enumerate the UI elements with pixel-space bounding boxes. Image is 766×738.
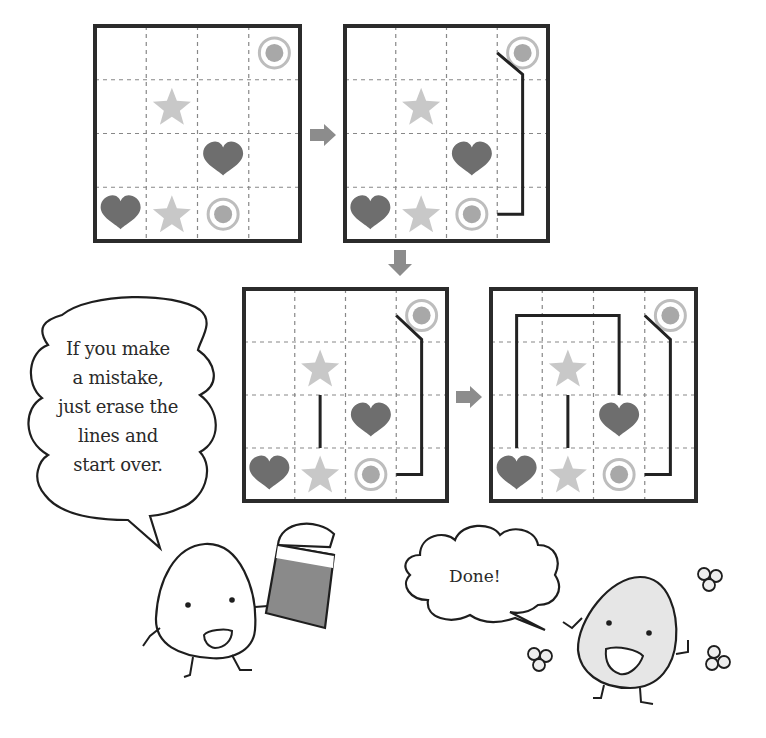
arrow-right-icon (310, 124, 336, 146)
speech-line: start over. (34, 450, 202, 479)
character-left (143, 544, 268, 677)
arrow-right-icon (456, 386, 482, 408)
puzzle-grid-step-4 (491, 289, 696, 501)
target-circle-icon (508, 38, 538, 68)
speech-text-left: If you make a mistake, just erase the li… (34, 334, 202, 479)
target-circle-icon (457, 199, 487, 229)
target-circle-icon (604, 460, 634, 490)
speech-line: just erase the (34, 392, 202, 421)
puzzle-grid-step-3 (244, 289, 447, 501)
target-circle-icon (655, 301, 685, 331)
puzzle-grid-step-1 (95, 26, 300, 241)
speech-line: a mistake, (34, 363, 202, 392)
target-circle-icon (407, 301, 437, 331)
speech-line: If you make (34, 334, 202, 363)
arrow-down-icon (388, 250, 412, 276)
target-circle-icon (356, 460, 386, 490)
speech-text-right: Done! (449, 566, 501, 586)
target-circle-icon (208, 199, 238, 229)
character-right (563, 577, 688, 704)
target-circle-icon (259, 38, 289, 68)
puzzle-grid-step-2 (345, 26, 548, 241)
eraser-icon (266, 524, 334, 628)
speech-line: lines and (34, 421, 202, 450)
